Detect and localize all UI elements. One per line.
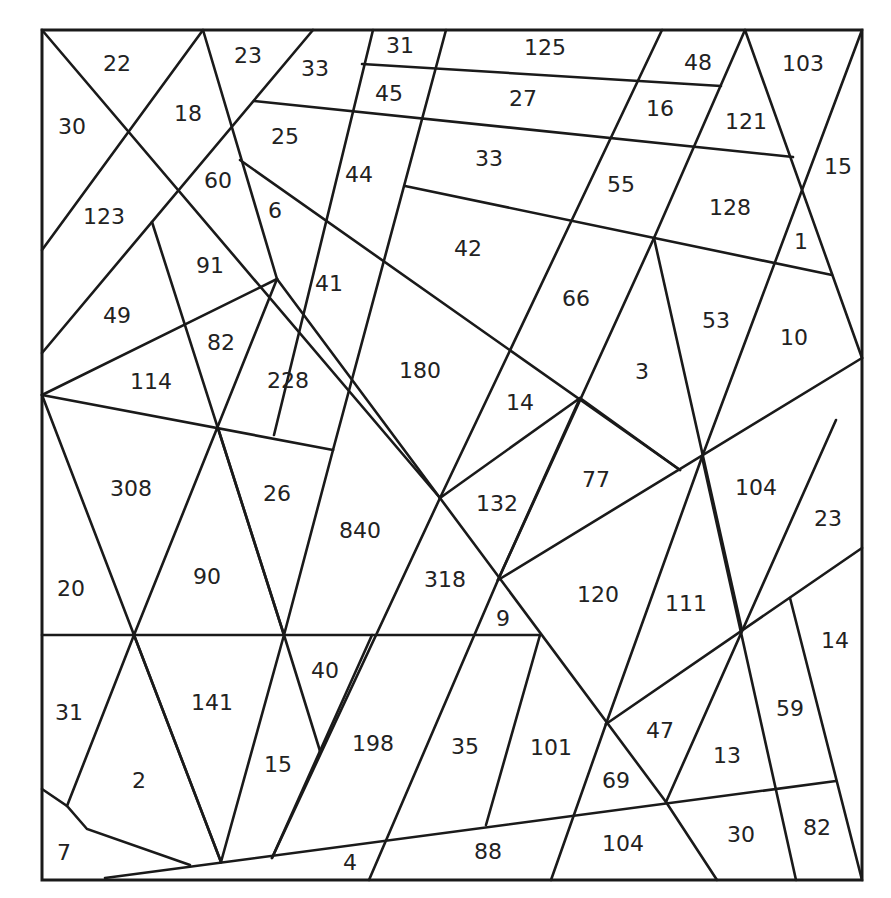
region-label: 111	[665, 591, 707, 616]
region-label: 840	[339, 518, 381, 543]
region-label: 125	[524, 35, 566, 60]
region-label: 82	[803, 815, 831, 840]
region-label: 49	[103, 303, 131, 328]
region-label: 27	[509, 86, 537, 111]
region-label: 48	[684, 50, 712, 75]
region-label: 25	[271, 124, 299, 149]
region-label: 15	[264, 752, 292, 777]
region-label: 88	[474, 839, 502, 864]
region-label: 90	[193, 564, 221, 589]
region-label: 26	[263, 481, 291, 506]
region-label: 13	[713, 743, 741, 768]
region-label: 60	[204, 168, 232, 193]
region-labels: 2223333112548103301845271612125331560445…	[55, 33, 852, 875]
region-label: 104	[735, 475, 777, 500]
region-label: 141	[191, 690, 233, 715]
region-label: 45	[375, 81, 403, 106]
region-label: 55	[607, 172, 635, 197]
region-label: 18	[174, 101, 202, 126]
region-label: 30	[58, 114, 86, 139]
region-label: 132	[476, 491, 518, 516]
region-label: 31	[55, 700, 83, 725]
region-label: 91	[196, 253, 224, 278]
region-label: 20	[57, 576, 85, 601]
region-label: 42	[454, 236, 482, 261]
region-label: 31	[386, 33, 414, 58]
region-label: 77	[582, 467, 610, 492]
region-label: 66	[562, 286, 590, 311]
region-label: 101	[530, 735, 572, 760]
region-label: 2	[132, 768, 146, 793]
region-label: 40	[311, 658, 339, 683]
region-label: 3	[635, 359, 649, 384]
area-puzzle-diagram: 2223333112548103301845271612125331560445…	[0, 0, 891, 898]
region-label: 1	[794, 229, 808, 254]
region-label: 33	[475, 146, 503, 171]
region-label: 9	[496, 606, 510, 631]
region-label: 30	[727, 822, 755, 847]
region-label: 33	[301, 56, 329, 81]
region-label: 23	[814, 506, 842, 531]
region-label: 14	[821, 628, 849, 653]
region-label: 6	[268, 198, 282, 223]
region-label: 44	[345, 162, 373, 187]
region-label: 7	[57, 840, 71, 865]
region-label: 318	[424, 567, 466, 592]
region-label: 59	[776, 696, 804, 721]
region-label: 53	[702, 308, 730, 333]
region-label: 16	[646, 96, 674, 121]
region-label: 47	[646, 718, 674, 743]
region-label: 14	[506, 390, 534, 415]
region-label: 82	[207, 330, 235, 355]
region-label: 198	[352, 731, 394, 756]
region-label: 35	[451, 734, 479, 759]
region-label: 228	[267, 368, 309, 393]
region-label: 308	[110, 476, 152, 501]
region-label: 23	[234, 43, 262, 68]
region-label: 121	[725, 109, 767, 134]
region-label: 114	[130, 369, 172, 394]
region-label: 10	[780, 325, 808, 350]
region-label: 103	[782, 51, 824, 76]
region-label: 180	[399, 358, 441, 383]
region-label: 22	[103, 51, 131, 76]
region-label: 104	[602, 831, 644, 856]
region-label: 128	[709, 195, 751, 220]
region-label: 120	[577, 582, 619, 607]
region-label: 69	[602, 768, 630, 793]
region-label: 123	[83, 204, 125, 229]
region-label: 41	[315, 271, 343, 296]
region-label: 15	[824, 154, 852, 179]
region-label: 4	[343, 850, 357, 875]
